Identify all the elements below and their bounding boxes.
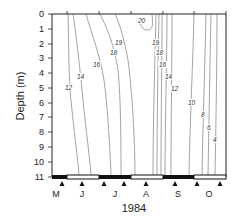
month-label-june: J: [80, 189, 85, 199]
isotherm-labels: 12 14 16 18 19 20 19 18 16 14 12 10 8 6 …: [64, 17, 218, 143]
month-bar: [52, 175, 226, 179]
triangle-marker-icon: [60, 181, 65, 186]
isotherm-label-14b: 14: [165, 73, 173, 80]
temperature-depth-contour-chart: Depth (m) 0 1 2 3 4 5 6 7 8 9 10 11: [0, 0, 239, 223]
month-label-july: J: [113, 189, 118, 199]
y-tick-3: 3: [39, 53, 44, 63]
isotherm-label-20: 20: [137, 17, 146, 24]
isotherm-label-16b: 16: [159, 61, 167, 68]
y-tick-9: 9: [39, 142, 44, 152]
triangle-marker-icon: [195, 181, 200, 186]
triangle-marker-icon: [80, 181, 85, 186]
x-month-labels: M J J A S O: [52, 189, 212, 199]
y-tick-8: 8: [39, 127, 44, 137]
x-axis-title: 1984: [122, 202, 146, 214]
isotherm-label-18a: 18: [110, 49, 118, 56]
triangle-marker-icon: [122, 181, 127, 186]
y-tick-5: 5: [39, 83, 44, 93]
month-label-september: S: [175, 189, 181, 199]
sampling-markers: [60, 181, 223, 186]
y-tick-4: 4: [39, 68, 44, 78]
month-label-october: O: [205, 189, 212, 199]
isotherm-label-4: 4: [213, 136, 217, 143]
y-tick-labels: 0 1 2 3 4 5 6 7 8 9 10 11: [34, 9, 44, 182]
y-tick-7: 7: [39, 112, 44, 122]
triangle-marker-icon: [173, 181, 178, 186]
y-tick-10: 10: [34, 157, 44, 167]
y-tick-2: 2: [39, 39, 44, 49]
y-tick-0: 0: [39, 9, 44, 19]
month-label-may: M: [52, 189, 60, 199]
isotherm-label-18b: 18: [156, 49, 164, 56]
triangle-marker-icon: [144, 181, 149, 186]
y-axis-title: Depth (m): [14, 72, 26, 121]
triangle-marker-icon: [102, 181, 107, 186]
isotherm-label-6: 6: [207, 124, 211, 131]
isotherm-label-8: 8: [201, 111, 205, 118]
triangle-marker-icon: [218, 181, 223, 186]
isotherm-label-10: 10: [188, 99, 196, 106]
isotherm-label-12b: 12: [171, 85, 179, 92]
y-tick-1: 1: [39, 24, 44, 34]
isotherm-label-14a: 14: [77, 73, 85, 80]
plot-frame: [52, 14, 226, 177]
isotherm-label-12a: 12: [65, 84, 73, 91]
isotherm-label-19a: 19: [115, 39, 123, 46]
month-label-august: A: [143, 189, 149, 199]
y-tick-11: 11: [35, 172, 44, 182]
y-tick-6: 6: [39, 98, 44, 108]
isotherm-label-16a: 16: [93, 61, 101, 68]
y-tick-marks: [48, 14, 52, 177]
isotherm-label-19b: 19: [152, 39, 160, 46]
isotherm-lines: [68, 14, 217, 175]
